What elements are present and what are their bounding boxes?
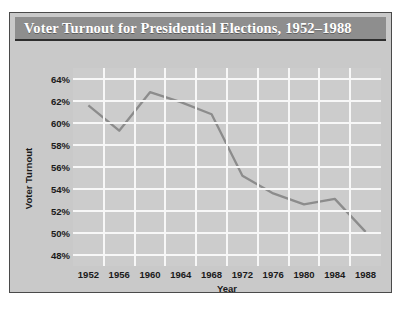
y-axis-tick-label: 56%: [40, 162, 70, 173]
gridline-vertical: [103, 68, 105, 266]
x-axis-title: Year: [73, 283, 381, 294]
x-axis-tick-label: 1988: [346, 269, 386, 280]
y-axis-tick-label: 64%: [40, 74, 70, 85]
gridline-vertical: [226, 68, 228, 266]
y-axis-tick-label: 54%: [40, 184, 70, 195]
gridline-vertical: [257, 68, 259, 266]
x-axis-tick-labels: 1952195619601964196819721976198019841988: [73, 269, 381, 283]
y-axis-tick-label: 58%: [40, 140, 70, 151]
y-axis-title-label: Voter Turnout: [24, 147, 35, 208]
chart-title: Voter Turnout for Presidential Elections…: [15, 20, 352, 37]
chart-title-bar: Voter Turnout for Presidential Elections…: [15, 17, 386, 41]
gridline-vertical: [195, 68, 197, 266]
gridline-vertical: [318, 68, 320, 266]
y-axis-tick-label: 62%: [40, 96, 70, 107]
y-axis-tick-label: 52%: [40, 206, 70, 217]
gridline-vertical: [288, 68, 290, 266]
y-axis-title: Voter Turnout: [22, 113, 36, 243]
y-axis-tick-labels: 48%50%52%54%56%58%60%62%64%: [40, 68, 70, 266]
gridline-vertical: [349, 68, 351, 266]
gridline-vertical: [164, 68, 166, 266]
chart-figure: Voter Turnout for Presidential Elections…: [9, 12, 392, 293]
y-axis-tick-label: 50%: [40, 228, 70, 239]
plot-area: [73, 68, 381, 266]
gridline-vertical: [134, 68, 136, 266]
y-axis-tick-label: 48%: [40, 250, 70, 261]
y-axis-tick-label: 60%: [40, 118, 70, 129]
